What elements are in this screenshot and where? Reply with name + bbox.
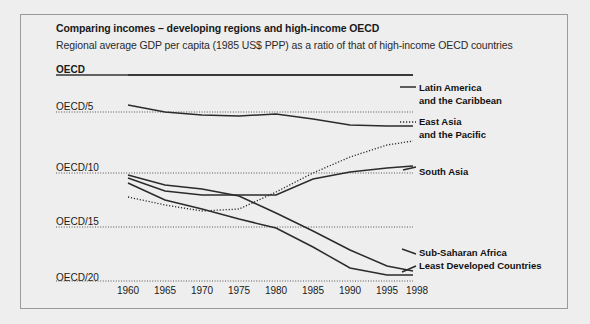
x-tick-label-1985: 1985 xyxy=(302,285,324,296)
x-tick-label-1975: 1975 xyxy=(228,285,250,296)
y-tick-label-oecd-20: OECD/20 xyxy=(56,272,99,283)
y-tick-label-oecd: OECD xyxy=(56,64,85,75)
series-label-line2: and the Pacific xyxy=(419,129,486,140)
series-label-line1: East Asia xyxy=(419,116,461,127)
x-tick-label-1990: 1990 xyxy=(339,285,361,296)
figure: Comparing incomes – developing regions a… xyxy=(0,0,590,324)
chart-subtitle: Regional average GDP per capita (1985 US… xyxy=(56,39,513,51)
series-label-east-asia: East Asia and the Pacific xyxy=(419,116,486,141)
series-label-line1: Latin America xyxy=(419,82,481,93)
series-label-south-asia: South Asia xyxy=(419,166,468,179)
x-tick-label-1970: 1970 xyxy=(191,285,213,296)
x-tick-label-1998: 1998 xyxy=(406,285,428,296)
series-label-latin-america: Latin America and the Caribbean xyxy=(419,82,502,107)
x-tick-label-1960: 1960 xyxy=(117,285,139,296)
x-tick-label-1965: 1965 xyxy=(154,285,176,296)
x-tick-label-1995: 1995 xyxy=(376,285,398,296)
series-label-sub-saharan-africa: Sub-Saharan Africa Least Developed Count… xyxy=(419,247,541,272)
y-tick-label-oecd-10: OECD/10 xyxy=(56,162,99,173)
y-tick-label-oecd-15: OECD/15 xyxy=(56,216,99,227)
series-label-line1: South Asia xyxy=(419,166,468,177)
series-label-line2: and the Caribbean xyxy=(419,95,502,106)
chart-title: Comparing incomes – developing regions a… xyxy=(56,22,379,34)
y-tick-label-oecd-5: OECD/5 xyxy=(56,101,93,112)
series-label-line1: Sub-Saharan Africa xyxy=(419,247,507,258)
x-tick-label-1980: 1980 xyxy=(265,285,287,296)
series-label-line2: Least Developed Countries xyxy=(419,260,541,271)
